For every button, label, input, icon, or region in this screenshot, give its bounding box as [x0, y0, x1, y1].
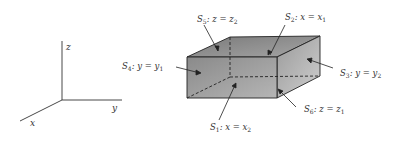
- rectangular-box: [187, 36, 320, 98]
- face-label-s6: S6: z = z1: [304, 104, 345, 115]
- face-label-s5: S5: z = z2: [197, 14, 238, 25]
- face-label-s1: S1: x = x2: [210, 122, 251, 133]
- face-label-s4: S4: y = y1: [122, 61, 163, 72]
- z-axis-label: z: [65, 42, 71, 52]
- y-axis-label: y: [111, 103, 118, 113]
- face-label-s2: S2: x = x1: [285, 12, 326, 23]
- coordinate-axes: [20, 41, 122, 121]
- x-axis-label: x: [30, 118, 35, 128]
- face-label-s3: S3: y = y2: [340, 68, 381, 79]
- x-axis: [20, 100, 62, 121]
- diagram-stage: z y x S5: z = z2: [0, 0, 400, 141]
- diagram-svg: z y x S5: z = z2: [0, 0, 400, 141]
